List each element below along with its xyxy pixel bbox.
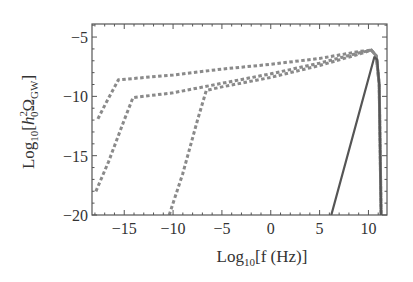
- y-tick-label: −10: [63, 88, 88, 105]
- series-dotted-3: [169, 50, 381, 215]
- x-tick-labels: −15−10−50510: [112, 220, 377, 237]
- x-tick-label: −10: [161, 220, 186, 237]
- x-tick-label: −15: [112, 220, 137, 237]
- y-tick-labels: −5−10−15−20: [63, 29, 88, 224]
- chart: −15−10−50510 −5−10−15−20 Log10[f (Hz)] L…: [0, 0, 413, 282]
- series-solid: [331, 57, 381, 215]
- x-tick-label: 0: [267, 220, 275, 237]
- y-axis-label: Log10[h20ΩGW]: [17, 75, 40, 169]
- x-tick-label: 10: [360, 220, 376, 237]
- y-tick-label: −5: [71, 29, 88, 46]
- axis-ticks: [92, 24, 387, 215]
- series-layer: [96, 50, 381, 215]
- plot-frame: [92, 24, 387, 215]
- x-tick-label: −5: [213, 220, 230, 237]
- y-tick-label: −15: [63, 148, 88, 165]
- x-tick-label: 5: [316, 220, 324, 237]
- y-tick-label: −20: [63, 207, 88, 224]
- x-axis-label: Log10[f (Hz)]: [217, 247, 308, 268]
